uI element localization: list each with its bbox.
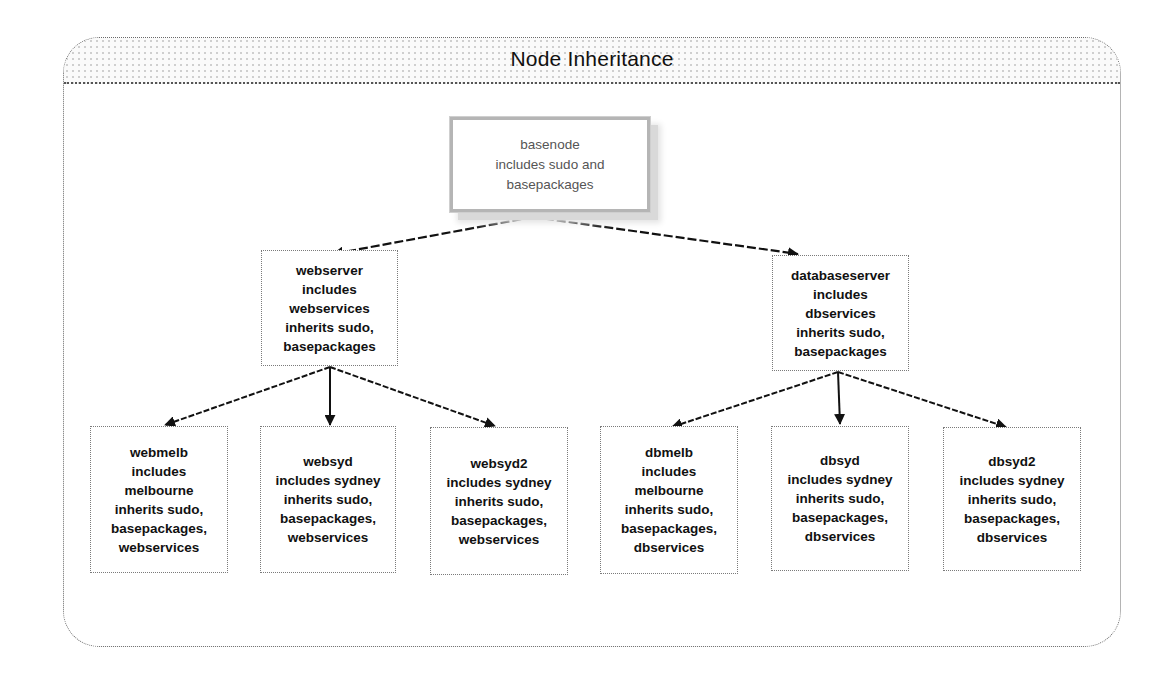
node-webmelb-line: melbourne [124, 481, 193, 500]
node-dbsyd2-line: basepackages, [964, 509, 1060, 528]
node-webserver-line: webservices [289, 299, 369, 318]
node-dbmelb-line: basepackages, [621, 519, 717, 538]
node-basenode: basenode includes sudo and basepackages [450, 117, 650, 212]
node-websyd-line: basepackages, [280, 509, 376, 528]
node-webserver-line: webserver [296, 261, 363, 280]
diagram-header: Node Inheritance [64, 38, 1120, 84]
node-websyd2-line: webservices [459, 530, 539, 549]
node-databaseserver: databaseserver includes dbservices inher… [772, 255, 909, 371]
node-dbsyd-line: dbsyd [820, 451, 860, 470]
node-websyd2-line: basepackages, [451, 511, 547, 530]
node-databaseserver-line: databaseserver [791, 266, 890, 285]
node-dbsyd2-line: dbservices [977, 528, 1048, 547]
node-dbsyd: dbsyd includes sydney inherits sudo, bas… [771, 426, 909, 571]
node-dbmelb-line: dbmelb [645, 443, 693, 462]
node-dbmelb-line: includes [642, 462, 697, 481]
node-databaseserver-line: includes [813, 285, 868, 304]
node-dbmelb-line: inherits sudo, [625, 500, 714, 519]
node-webserver: webserver includes webservices inherits … [261, 250, 398, 366]
node-basenode-line: basenode [520, 135, 579, 155]
node-websyd: websyd includes sydney inherits sudo, ba… [260, 426, 396, 573]
node-webserver-line: inherits sudo, [285, 318, 374, 337]
node-basenode-line: basepackages [506, 175, 593, 195]
node-databaseserver-line: inherits sudo, [796, 323, 885, 342]
node-dbsyd2-line: dbsyd2 [988, 452, 1035, 471]
diagram-title: Node Inheritance [510, 47, 673, 71]
node-databaseserver-line: basepackages [794, 342, 886, 361]
node-basenode-line: includes sudo and [496, 155, 605, 175]
node-webmelb-line: basepackages, [111, 519, 207, 538]
node-websyd2-line: websyd2 [470, 454, 527, 473]
node-webmelb-line: webmelb [130, 443, 188, 462]
node-dbsyd-line: inherits sudo, [796, 489, 885, 508]
node-websyd2: websyd2 includes sydney inherits sudo, b… [430, 427, 568, 575]
node-webserver-line: basepackages [283, 337, 375, 356]
node-webmelb-line: webservices [119, 538, 199, 557]
node-dbmelb: dbmelb includes melbourne inherits sudo,… [600, 426, 738, 574]
node-dbsyd-line: basepackages, [792, 508, 888, 527]
node-websyd-line: websyd [303, 452, 353, 471]
node-websyd-line: inherits sudo, [284, 490, 373, 509]
node-webmelb-line: inherits sudo, [115, 500, 204, 519]
node-webmelb-line: includes [132, 462, 187, 481]
node-databaseserver-line: dbservices [805, 304, 876, 323]
node-dbsyd-line: includes sydney [787, 470, 892, 489]
node-dbmelb-line: dbservices [634, 538, 705, 557]
node-websyd2-line: includes sydney [446, 473, 551, 492]
node-dbsyd2-line: inherits sudo, [968, 490, 1057, 509]
node-websyd2-line: inherits sudo, [455, 492, 544, 511]
node-websyd-line: includes sydney [275, 471, 380, 490]
node-webserver-line: includes [302, 280, 357, 299]
node-dbmelb-line: melbourne [634, 481, 703, 500]
node-websyd-line: webservices [288, 528, 368, 547]
node-webmelb: webmelb includes melbourne inherits sudo… [90, 426, 228, 573]
node-dbsyd2: dbsyd2 includes sydney inherits sudo, ba… [943, 427, 1081, 571]
node-dbsyd-line: dbservices [805, 527, 876, 546]
node-dbsyd2-line: includes sydney [959, 471, 1064, 490]
